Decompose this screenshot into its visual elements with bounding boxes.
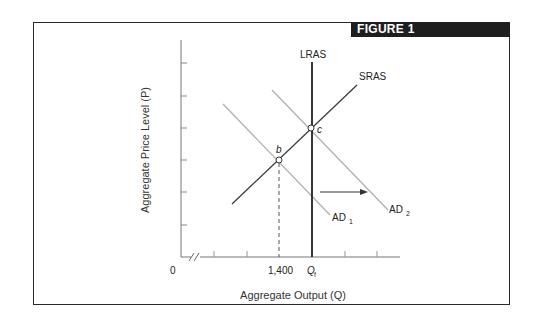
y-axis-ticks xyxy=(181,63,187,225)
lras-label: LRAS xyxy=(300,49,326,60)
point-c-label: c xyxy=(317,124,322,135)
ad1-label: AD xyxy=(332,212,346,223)
ad2-label: AD xyxy=(389,204,403,215)
sras-label: SRAS xyxy=(359,71,387,82)
y-axis-title: Aggregate Price Level (P) xyxy=(139,87,151,213)
point-b-label: b xyxy=(276,144,282,155)
x-axis-ticks xyxy=(214,251,377,257)
ad2-subscript: 2 xyxy=(406,210,410,217)
as-ad-chart: b c LRAS SRAS AD 1 AD 2 0 1,400 Q f Aggr… xyxy=(0,0,536,331)
arrow-right-icon xyxy=(360,189,368,195)
origin-label: 0 xyxy=(170,265,176,276)
x-tick-qf-subscript: f xyxy=(314,271,316,278)
x-tick-1400: 1,400 xyxy=(268,265,293,276)
point-c xyxy=(308,125,314,131)
sras-curve xyxy=(232,85,357,204)
point-b xyxy=(276,157,282,163)
x-axis-title: Aggregate Output (Q) xyxy=(240,289,346,301)
ad1-subscript: 1 xyxy=(349,218,353,225)
